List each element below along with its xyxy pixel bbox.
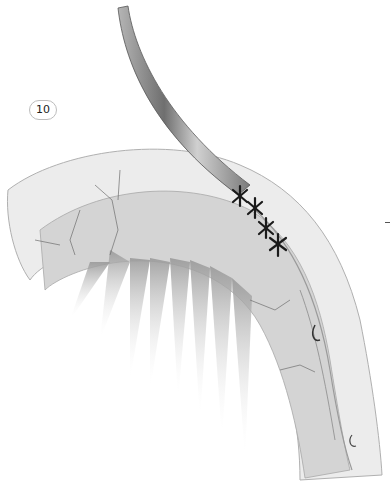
surgical-illustration xyxy=(0,0,390,490)
figure-panel-label: 10 xyxy=(29,100,57,120)
edge-tick-mark xyxy=(385,222,390,223)
mesentery xyxy=(70,250,252,460)
